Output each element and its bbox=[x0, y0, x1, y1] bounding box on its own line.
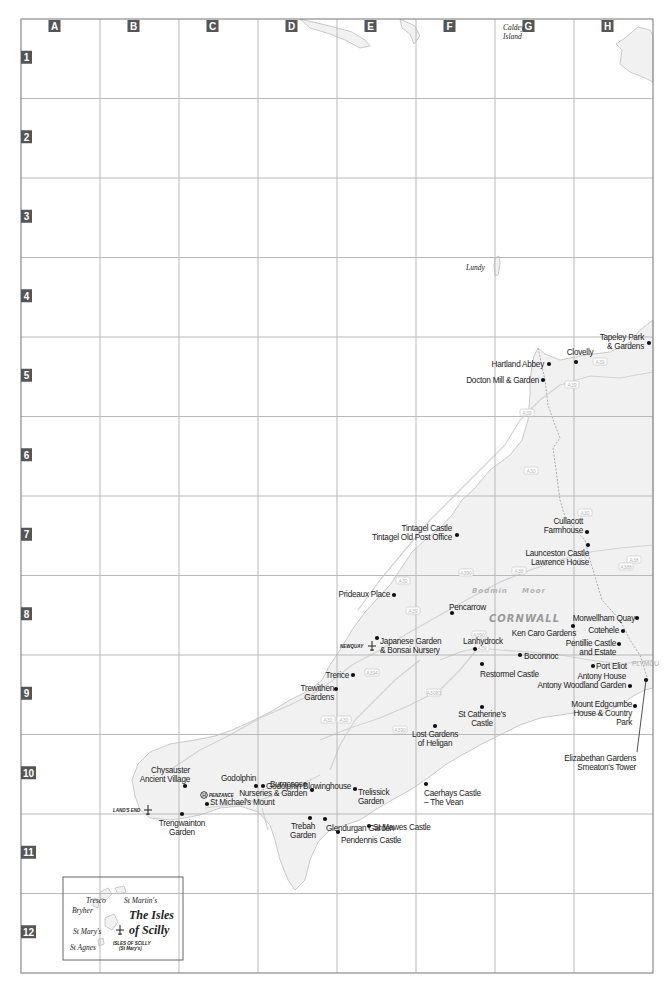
poi-label: Pendennis Castle bbox=[341, 836, 402, 845]
poi-marker-icon bbox=[617, 642, 621, 646]
poi-japanese[interactable]: Japanese Garden& Bonsai Nursery bbox=[375, 636, 442, 655]
row-badge-8: 8 bbox=[21, 607, 32, 620]
poi-label: Clovelly bbox=[567, 348, 595, 357]
road-badge-a38: A38 bbox=[512, 567, 526, 574]
poi-label: Castle bbox=[471, 719, 493, 728]
poi-edgcumbe[interactable]: Mount EdgcumbeHouse & CountryPark bbox=[571, 700, 637, 727]
road-badge-label: A390 bbox=[394, 727, 406, 733]
island-label-caldey-2: Island bbox=[502, 32, 522, 41]
poi-marker-icon bbox=[480, 662, 484, 666]
road-badge-label: A30 bbox=[340, 717, 349, 723]
poi-blowinghouse[interactable]: Godolphin Blowinghouse bbox=[261, 782, 352, 791]
poi-label: Lawrence House bbox=[531, 558, 590, 567]
row-badge-11: 11 bbox=[21, 846, 36, 859]
poi-marker-icon bbox=[180, 812, 184, 816]
poi-porteliot[interactable]: Port Eliot bbox=[591, 662, 628, 671]
poi-label: Cotehele bbox=[588, 626, 619, 635]
row-badge-label: 1 bbox=[24, 52, 30, 63]
poi-label: Lost Gardens bbox=[412, 730, 458, 739]
poi-marker-icon bbox=[353, 787, 357, 791]
road-badge-label: A39 bbox=[523, 410, 532, 416]
inset-island-stmartins: St Martin's bbox=[124, 896, 157, 905]
poi-label: Trebah bbox=[291, 822, 316, 831]
poi-hartland[interactable]: Hartland Abbey bbox=[492, 360, 552, 369]
column-badge-d: D bbox=[286, 20, 298, 32]
poi-label: Cullacott bbox=[553, 517, 584, 526]
road-badge-a30: A30 bbox=[321, 716, 335, 723]
row-badge-12: 12 bbox=[21, 925, 36, 938]
row-badge-label: 8 bbox=[24, 609, 30, 620]
poi-boconnoc[interactable]: Boconnoc bbox=[518, 652, 559, 661]
poi-label: Prideaux Place bbox=[338, 590, 390, 599]
poi-tintagel[interactable]: Tintagel CastleTintagel Old Post Office bbox=[372, 524, 459, 542]
poi-label: Pencarrow bbox=[449, 603, 486, 612]
row-badge-label: 12 bbox=[23, 927, 35, 938]
poi-marker-icon bbox=[351, 673, 355, 677]
poi-caerhays[interactable]: Caerhays Castle– The Vean bbox=[424, 782, 482, 807]
airport-label-landsend: LAND'S END bbox=[113, 808, 141, 813]
poi-label: Antony House bbox=[578, 672, 627, 681]
moor-label: Moor bbox=[522, 587, 546, 595]
poi-docton[interactable]: Docton Mill & Garden bbox=[466, 376, 545, 385]
poi-prideaux[interactable]: Prideaux Place bbox=[338, 590, 396, 599]
land-layer bbox=[93, 19, 653, 946]
poi-label: Elizabethan Gardens bbox=[564, 754, 636, 763]
row-badge-label: 3 bbox=[24, 211, 30, 222]
island-label-caldey-1: Caldey bbox=[503, 23, 525, 32]
poi-marker-icon bbox=[635, 616, 639, 620]
row-badge-label: 7 bbox=[24, 529, 30, 540]
poi-marker-icon bbox=[571, 624, 575, 628]
column-badge-label: A bbox=[51, 21, 58, 32]
airport-label-newquay: NEWQUAY bbox=[340, 644, 364, 649]
row-badge-label: 11 bbox=[23, 847, 34, 858]
poi-label: Boconnoc bbox=[524, 652, 559, 661]
poi-trewithen[interactable]: TrewithenGardens bbox=[301, 684, 339, 702]
poi-label: Port Eliot bbox=[596, 662, 628, 671]
poi-morwellham[interactable]: Morwellham Quay bbox=[573, 614, 639, 623]
island-label-lundy: Lundy bbox=[465, 263, 485, 272]
road-badge-label: A30 bbox=[581, 510, 590, 516]
poi-label: of Heligan bbox=[418, 739, 453, 748]
poi-stmichael[interactable]: St Michael's Mount bbox=[205, 798, 275, 807]
poi-label: Launceston Castle bbox=[525, 549, 589, 558]
column-badge-label: H bbox=[604, 21, 611, 32]
poi-marker-icon bbox=[433, 724, 437, 728]
poi-marker-icon bbox=[473, 647, 477, 651]
poi-tapeley[interactable]: Tapeley Park& Gardens bbox=[600, 333, 651, 351]
poi-marker-icon bbox=[647, 341, 651, 345]
poi-label: Antony Woodland Garden bbox=[537, 681, 626, 690]
row-badge-3: 3 bbox=[21, 210, 32, 223]
coast-top-h bbox=[616, 27, 653, 82]
poi-marker-icon bbox=[261, 784, 265, 788]
inset-island-stagnes: St Agnes bbox=[70, 943, 96, 952]
poi-label: & Bonsai Nursery bbox=[380, 646, 441, 655]
road-badge-label: A3083 bbox=[427, 690, 442, 696]
poi-marker-icon bbox=[633, 704, 637, 708]
poi-marker-icon bbox=[628, 684, 632, 688]
road-badge-a30: A30 bbox=[337, 716, 351, 723]
heliport-penzance[interactable]: H PENZANCE bbox=[201, 792, 235, 799]
inset-island-stmarys: St Mary's bbox=[73, 927, 102, 936]
column-badge-c: C bbox=[207, 20, 219, 32]
plymouth-fragment-label: PLYMOU bbox=[632, 660, 659, 667]
row-badge-label: 2 bbox=[24, 132, 30, 143]
road-badge-a30: A30 bbox=[396, 577, 410, 584]
poi-label: Ancient Village bbox=[140, 775, 191, 784]
inset-title-line-1: The Isles bbox=[129, 908, 174, 922]
column-badge-label: B bbox=[130, 21, 137, 32]
poi-label: Mount Edgcumbe bbox=[571, 700, 632, 709]
road-badge-a390: A390 bbox=[459, 569, 473, 576]
road-badge-label: A30 bbox=[527, 468, 536, 474]
poi-label: Glendurgan Garden bbox=[326, 824, 395, 833]
poi-marker-icon bbox=[586, 543, 590, 547]
poi-label: Smeaton's Tower bbox=[577, 763, 636, 772]
poi-label: Trerice bbox=[326, 671, 350, 680]
scilly-stagnes bbox=[98, 938, 104, 946]
road-badge-label: A30 bbox=[399, 578, 408, 584]
poi-marker-icon bbox=[480, 705, 484, 709]
coast-top-e bbox=[300, 19, 370, 48]
poi-marker-icon bbox=[424, 782, 428, 786]
airport-sublabel-scilly: (St Mary's) bbox=[119, 946, 142, 951]
poi-marker-icon bbox=[308, 816, 312, 820]
column-badge-label: E bbox=[367, 21, 374, 32]
